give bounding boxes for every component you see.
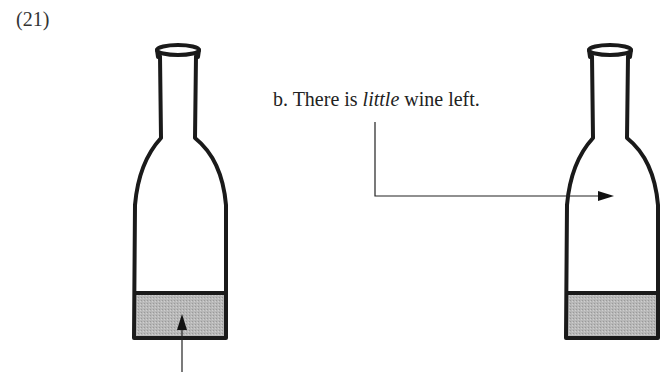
left-bottle bbox=[134, 45, 226, 338]
wine-bottle-figure bbox=[0, 0, 671, 374]
right-bottle bbox=[566, 45, 658, 338]
